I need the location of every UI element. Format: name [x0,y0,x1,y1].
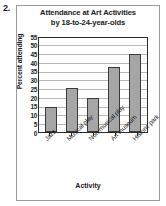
y-axis-tick-label: 50 [30,42,37,49]
chart-title: Attendance at Art Activities by 18-to-24… [16,8,160,27]
chart-title-line-2: by 18-to-24-year-olds [16,18,160,28]
y-axis-tick-label: 10 [30,112,37,119]
y-axis-tick-label: 55 [30,34,37,41]
y-axis-tick-label: 40 [30,60,37,67]
x-axis-title: Activity [16,182,160,189]
y-axis-tick-label: 15 [30,103,37,110]
x-axis-tick-labels: JazzMusical playNon-musical playArt muse… [38,133,148,179]
chart-title-line-1: Attendance at Art Activities [16,8,160,18]
y-axis-tick-label: 25 [30,86,37,93]
y-axis-tick-label: 0 [34,130,37,137]
y-axis-tick-label: 20 [30,95,37,102]
y-axis-tick-labels: 5550454035302520151050 [20,33,37,137]
item-number: 2. [3,3,10,13]
worksheet-page: 2. Attendance at Art Activities by 18-to… [0,0,166,206]
y-axis-tick-label: 30 [30,77,37,84]
y-axis-tick-label: 45 [30,51,37,58]
y-axis-tick-label: 35 [30,68,37,75]
y-axis-tick-label: 5 [34,121,37,128]
bar-slot [61,38,82,132]
bar-slot [40,38,61,132]
